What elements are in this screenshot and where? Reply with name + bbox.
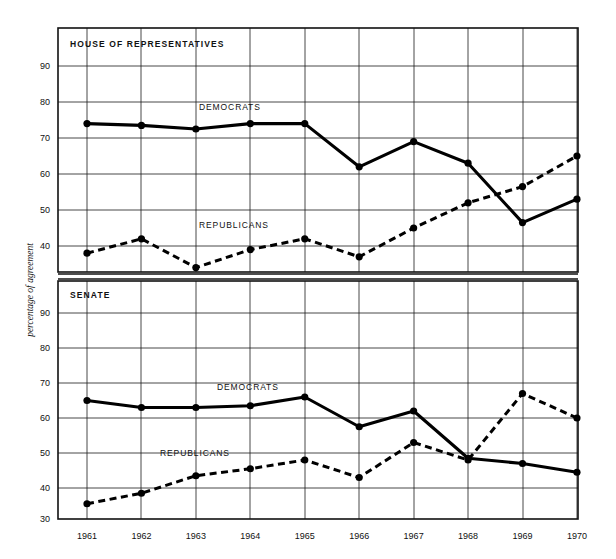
x-tick-label-1964: 1964 [240, 531, 260, 541]
data-point [519, 390, 526, 397]
data-point [301, 456, 308, 463]
house-ytick-60: 60 [40, 169, 50, 179]
data-point [410, 439, 417, 446]
data-point [519, 219, 526, 226]
data-point [464, 456, 471, 463]
house-plot-frame [58, 28, 578, 272]
y-axis-title-text: percentage of agreement [25, 243, 35, 338]
x-tick-label-1961: 1961 [77, 531, 97, 541]
x-tick-label-1965: 1965 [295, 531, 315, 541]
house-ytick-90: 90 [40, 61, 50, 71]
panel-divider [58, 274, 578, 279]
house-horizontal-gridlines [58, 66, 578, 246]
data-point [138, 122, 145, 129]
house-ytick-80: 80 [40, 97, 50, 107]
data-point [573, 196, 580, 203]
house-y-tick-labels: 90 80 70 60 50 40 [40, 61, 50, 251]
data-point [356, 423, 363, 430]
senate-ytick-80: 80 [40, 343, 50, 353]
x-tick-label-1968: 1968 [458, 531, 478, 541]
data-point [247, 402, 254, 409]
data-point [247, 246, 254, 253]
senate-ytick-30: 30 [40, 514, 50, 524]
data-point [410, 138, 417, 145]
x-tick-label-1963: 1963 [186, 531, 206, 541]
data-point [301, 235, 308, 242]
house-democrats-line [87, 124, 577, 223]
house-ytick-40: 40 [40, 241, 50, 251]
data-point [356, 253, 363, 260]
chart-figure: percentage of agreement [0, 0, 616, 559]
data-point [519, 183, 526, 190]
data-point [83, 397, 90, 404]
data-point [83, 500, 90, 507]
data-point [138, 235, 145, 242]
house-republicans-line [87, 156, 577, 268]
data-point [301, 120, 308, 127]
house-republicans-label: REPUBLICANS [199, 220, 269, 230]
senate-ytick-60: 60 [40, 413, 50, 423]
data-point [192, 404, 199, 411]
data-point [247, 465, 254, 472]
data-point [192, 264, 199, 271]
data-point [83, 120, 90, 127]
x-tick-label-1970: 1970 [567, 531, 587, 541]
x-tick-label-1966: 1966 [349, 531, 369, 541]
data-point [192, 472, 199, 479]
senate-democrats-line [87, 397, 577, 472]
x-tick-label-1967: 1967 [404, 531, 424, 541]
house-republicans-series [83, 152, 580, 271]
data-point [519, 460, 526, 467]
senate-vertical-gridlines [87, 281, 577, 519]
house-ytick-70: 70 [40, 133, 50, 143]
data-point [573, 152, 580, 159]
senate-panel: 90 80 70 60 50 40 30 SENATE DEMOCRATS RE… [40, 281, 581, 524]
house-vertical-gridlines [87, 28, 577, 272]
senate-republicans-label: REPUBLICANS [160, 448, 230, 458]
chart-canvas: percentage of agreement [0, 0, 616, 559]
data-point [138, 404, 145, 411]
senate-ytick-90: 90 [40, 308, 50, 318]
data-point [410, 407, 417, 414]
data-point [356, 474, 363, 481]
data-point [356, 163, 363, 170]
data-point [83, 250, 90, 257]
x-tick-label-1969: 1969 [513, 531, 533, 541]
senate-democrats-series [83, 393, 580, 475]
data-point [247, 120, 254, 127]
senate-plot-frame [58, 281, 578, 519]
house-democrats-label: DEMOCRATS [199, 102, 261, 112]
senate-y-tick-labels: 90 80 70 60 50 40 30 [40, 308, 50, 524]
senate-democrats-label: DEMOCRATS [217, 382, 279, 392]
data-point [410, 224, 417, 231]
data-point [573, 469, 580, 476]
senate-ytick-50: 50 [40, 448, 50, 458]
data-point [192, 125, 199, 132]
data-point [464, 160, 471, 167]
x-tick-label-1962: 1962 [131, 531, 151, 541]
y-axis-title: percentage of agreement [25, 243, 35, 338]
senate-ytick-40: 40 [40, 483, 50, 493]
data-point [573, 414, 580, 421]
house-panel: 90 80 70 60 50 40 HOUSE OF REPRESENTATIV… [40, 28, 581, 272]
data-point [138, 490, 145, 497]
house-ytick-50: 50 [40, 205, 50, 215]
senate-ytick-70: 70 [40, 378, 50, 388]
data-point [464, 199, 471, 206]
x-axis-labels: 1961196219631964196519661967196819691970 [77, 531, 587, 541]
senate-panel-title: SENATE [70, 290, 110, 300]
data-point [301, 393, 308, 400]
house-panel-title: HOUSE OF REPRESENTATIVES [70, 39, 225, 49]
